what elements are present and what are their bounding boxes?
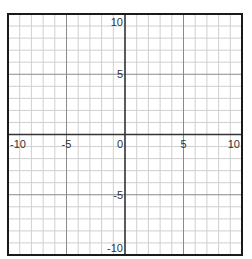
y-tick-label: 10 [111, 16, 123, 28]
y-tick-label: -5 [113, 189, 123, 201]
y-tick-label: -10 [107, 242, 123, 254]
coordinate-grid: -10-50510105-5-10 [0, 0, 252, 259]
x-tick-label: -5 [62, 138, 72, 150]
x-tick-label: 0 [117, 138, 123, 150]
x-tick-label: 10 [228, 138, 240, 150]
x-tick-label: -10 [10, 138, 26, 150]
y-tick-label: 5 [117, 68, 123, 80]
x-tick-label: 5 [180, 138, 186, 150]
grid-canvas: -10-50510105-5-10 [0, 0, 252, 259]
